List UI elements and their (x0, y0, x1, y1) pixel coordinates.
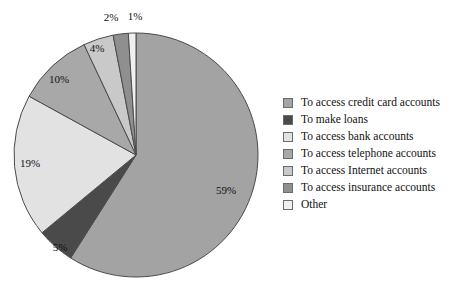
legend-item-label: To access bank accounts (301, 131, 414, 143)
legend-item[interactable]: Other (283, 196, 463, 213)
pie-plot-area: 59%5%19%10%4%2%1% (0, 0, 272, 295)
pie-svg (0, 0, 272, 295)
pie-slice-label: 4% (90, 42, 105, 54)
legend-color-swatch-icon (283, 166, 293, 176)
legend-item[interactable]: To make loans (283, 111, 463, 128)
chart-legend: To access credit card accountsTo make lo… (283, 94, 463, 213)
pie-slice-label: 5% (53, 241, 68, 253)
legend-color-swatch-icon (283, 98, 293, 108)
legend-item[interactable]: To access credit card accounts (283, 94, 463, 111)
pie-slice-label: 59% (216, 184, 236, 196)
legend-color-swatch-icon (283, 200, 293, 210)
legend-item-label: Other (301, 199, 327, 211)
pie-slice-label: 2% (104, 11, 119, 23)
legend-item[interactable]: To access Internet accounts (283, 162, 463, 179)
legend-item-label: To access credit card accounts (301, 97, 440, 109)
legend-item-label: To access insurance accounts (301, 182, 435, 194)
legend-item[interactable]: To access insurance accounts (283, 179, 463, 196)
pie-slice-label: 1% (128, 10, 143, 22)
pie-chart-figure: 59%5%19%10%4%2%1% To access credit card … (0, 0, 466, 295)
legend-color-swatch-icon (283, 132, 293, 142)
legend-item[interactable]: To access telephone accounts (283, 145, 463, 162)
pie-slice-label: 19% (20, 157, 40, 169)
legend-item-label: To access Internet accounts (301, 165, 427, 177)
legend-color-swatch-icon (283, 115, 293, 125)
legend-color-swatch-icon (283, 149, 293, 159)
legend-item[interactable]: To access bank accounts (283, 128, 463, 145)
pie-slice-label: 10% (49, 73, 69, 85)
legend-color-swatch-icon (283, 183, 293, 193)
legend-item-label: To access telephone accounts (301, 148, 436, 160)
legend-item-label: To make loans (301, 114, 368, 126)
pie-slice-group (14, 33, 258, 277)
